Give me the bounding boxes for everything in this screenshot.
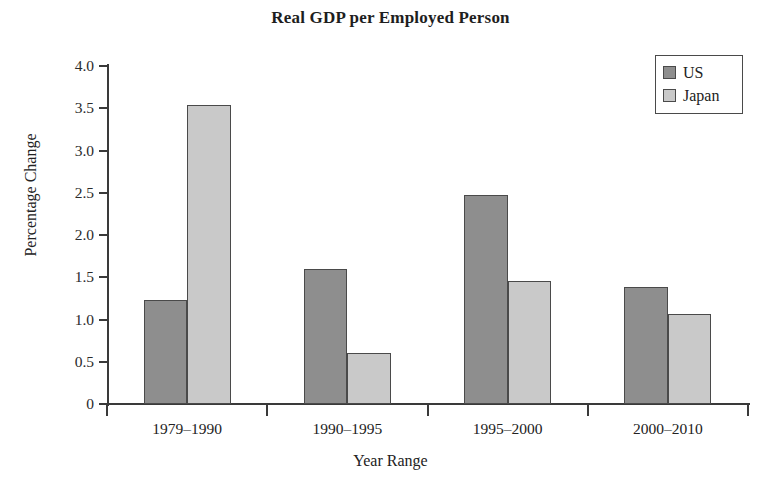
- bar-japan-0: [187, 105, 231, 404]
- y-axis-tick-label-wrap: 0.5: [44, 354, 94, 370]
- y-axis-tick-label-wrap: 0: [44, 396, 94, 412]
- y-axis-tick-label: 3.5: [48, 100, 94, 116]
- plot-area: [107, 66, 748, 404]
- bar-us-3: [624, 287, 668, 404]
- x-axis-category-label: 1995–2000: [428, 420, 588, 438]
- y-axis-tick-label-wrap: 2.0: [44, 227, 94, 243]
- x-axis-tick: [106, 405, 108, 416]
- y-axis-tick-label-wrap: 2.5: [44, 185, 94, 201]
- x-axis-category-label: 2000–2010: [588, 420, 748, 438]
- x-axis-category-label: 1990–1995: [267, 420, 427, 438]
- x-axis-tick: [427, 405, 429, 416]
- legend-label: US: [683, 65, 703, 81]
- x-axis-title: Year Range: [0, 452, 781, 470]
- bar-us-0: [144, 300, 188, 404]
- bar-japan-2: [508, 281, 552, 404]
- y-axis-tick-label-wrap: 3.0: [44, 143, 94, 159]
- y-axis-tick-label-wrap: 3.5: [44, 100, 94, 116]
- chart-figure: Real GDP per Employed Person 00.51.01.52…: [0, 0, 781, 497]
- y-axis-tick-label: 2.0: [48, 227, 94, 243]
- y-axis-tick-label: 3.0: [48, 143, 94, 159]
- legend-label: Japan: [683, 88, 719, 104]
- y-axis-tick-label-wrap: 1.5: [44, 269, 94, 285]
- x-axis-tick: [266, 405, 268, 416]
- y-axis-tick-label-wrap: 4.0: [44, 58, 94, 74]
- x-axis-tick: [747, 405, 749, 416]
- legend-item-japan[interactable]: Japan: [663, 84, 736, 107]
- legend-swatch-icon: [663, 89, 676, 102]
- y-axis-tick-label: 1.0: [48, 312, 94, 328]
- y-axis-tick-label: 4.0: [48, 58, 94, 74]
- y-axis-tick-label: 2.5: [48, 185, 94, 201]
- x-axis-category-label: 1979–1990: [107, 420, 267, 438]
- legend-item-us[interactable]: US: [663, 61, 736, 84]
- bar-japan-1: [347, 353, 391, 404]
- bar-japan-3: [668, 314, 712, 404]
- y-axis-tick-label: 0: [48, 396, 94, 412]
- y-axis-tick-label: 0.5: [48, 354, 94, 370]
- y-axis-title: Percentage Change: [22, 85, 40, 305]
- y-axis-tick-label-wrap: 1.0: [44, 312, 94, 328]
- bar-us-2: [464, 195, 508, 404]
- legend-swatch-icon: [663, 66, 676, 79]
- y-axis-tick-label: 1.5: [48, 269, 94, 285]
- chart-legend: USJapan: [655, 55, 743, 114]
- bar-us-1: [304, 269, 348, 404]
- chart-title: Real GDP per Employed Person: [0, 8, 781, 28]
- x-axis-tick: [587, 405, 589, 416]
